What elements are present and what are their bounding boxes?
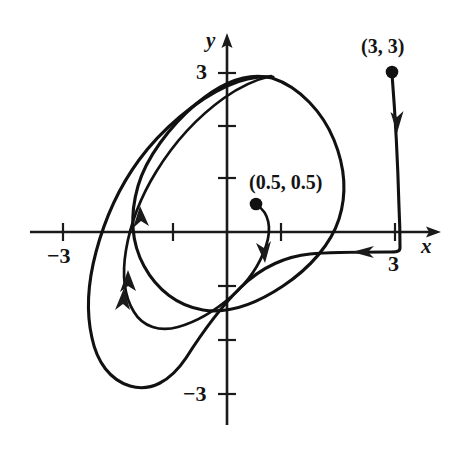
y-tick-label-3: 3 [196, 61, 207, 83]
initial-condition-dot-outer [386, 66, 399, 79]
x-tick-label-3: 3 [388, 253, 399, 275]
tick-group [63, 73, 395, 394]
point-label-outer: (3, 3) [361, 36, 404, 56]
flow-arrow-down-inner [256, 241, 271, 263]
x-axis-label: x [421, 236, 432, 257]
point-label-inner: (0.5, 0.5) [249, 172, 322, 192]
limit-cycle-curve [133, 76, 344, 311]
direction-arrow-group [115, 111, 404, 310]
flow-arrow-up-inner [120, 270, 136, 292]
flow-arrow-down-right [391, 111, 404, 133]
initial-condition-dot-inner [250, 198, 263, 211]
x-tick-label-neg3: −3 [47, 245, 71, 267]
inner-trajectory-curve [124, 76, 271, 329]
phase-portrait-figure: y x 3 −3 −3 3 (0.5, 0.5) (3, 3) [0, 0, 453, 450]
y-tick-label-neg3: −3 [183, 383, 207, 405]
phase-portrait-plot [0, 0, 453, 450]
y-axis-label: y [206, 30, 215, 51]
